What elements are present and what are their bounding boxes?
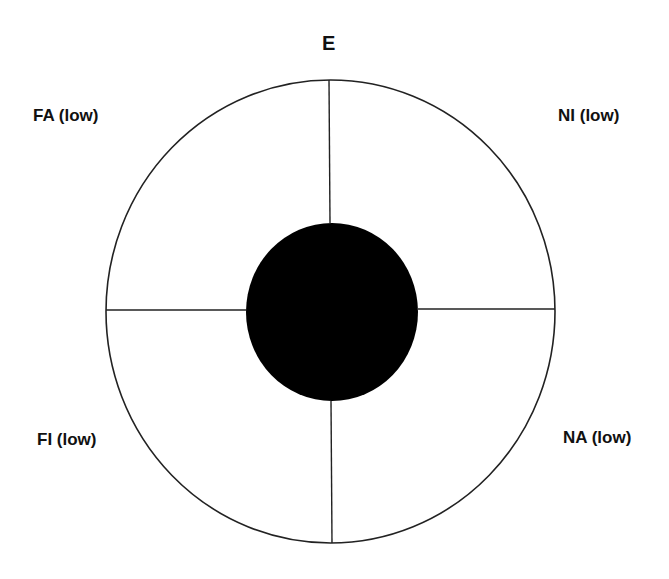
center-circle xyxy=(246,223,418,401)
label-ni-low: NI (low) xyxy=(558,107,619,124)
diagram-canvas: E FA (low) NI (low) FI (low) NA (low) xyxy=(0,0,669,579)
label-na-low: NA (low) xyxy=(563,429,631,446)
label-fa-low: FA (low) xyxy=(33,107,98,124)
divider-top xyxy=(329,80,330,223)
label-top-e: E xyxy=(322,33,335,53)
label-fi-low: FI (low) xyxy=(37,431,96,448)
quadrant-diagram xyxy=(0,0,669,579)
divider-bottom xyxy=(331,401,332,543)
